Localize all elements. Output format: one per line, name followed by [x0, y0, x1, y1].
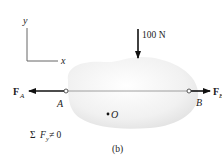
- applied-force-label: 100 N: [142, 30, 166, 40]
- point-o-label: O: [111, 109, 118, 120]
- x-axis-label: x: [60, 55, 66, 66]
- point-b-marker: [187, 89, 191, 93]
- point-a-marker: [64, 89, 68, 93]
- point-b-label: B: [196, 97, 202, 108]
- point-a-label: A: [56, 98, 64, 109]
- sigma-symbol: Σ: [30, 130, 36, 140]
- free-body-diagram: y x 100 N F A F B A B O: [0, 0, 222, 164]
- applied-force-100n: 100 N: [138, 29, 166, 58]
- equation-rhs: ≠ 0: [49, 130, 62, 140]
- equation-variable: F: [39, 130, 46, 140]
- coordinate-axes: y x: [22, 15, 66, 66]
- diagram-svg: y x 100 N F A F B A B O: [0, 0, 222, 164]
- rigid-body: [68, 57, 198, 129]
- force-fa-subscript: A: [19, 92, 25, 100]
- figure-caption: (b): [112, 144, 123, 155]
- point-o-marker: [107, 113, 110, 116]
- force-fb-subscript: B: [219, 92, 222, 100]
- force-fa-symbol: F: [13, 86, 19, 97]
- equilibrium-equation: Σ F y ≠ 0: [30, 130, 62, 142]
- y-axis-label: y: [22, 15, 28, 26]
